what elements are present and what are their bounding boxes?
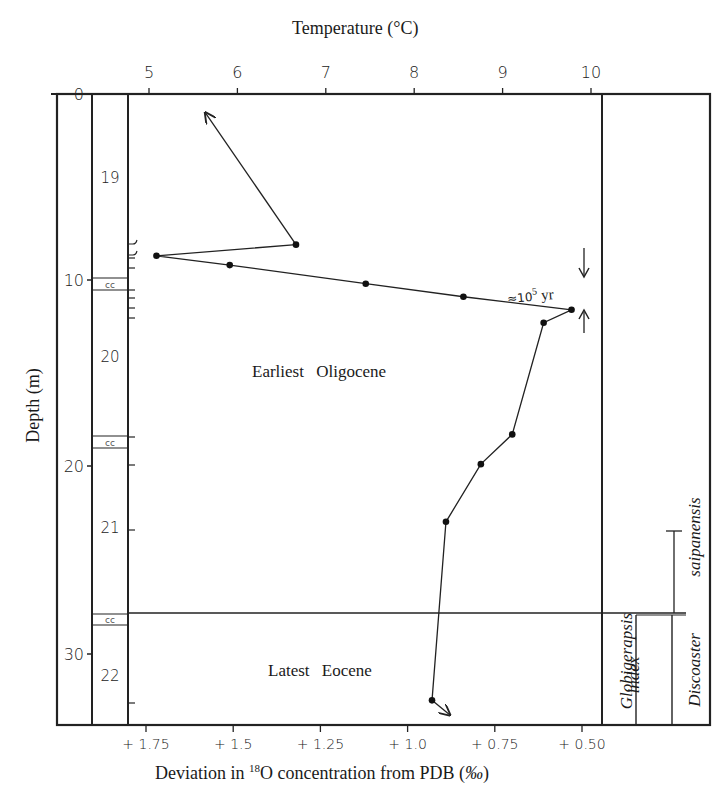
data-point <box>478 461 485 468</box>
top-axis-tick-label: 6 <box>232 63 242 82</box>
core-section-label: 20 <box>100 348 119 366</box>
top-axis-tick-label: 8 <box>409 63 419 82</box>
sample-hook <box>128 240 137 244</box>
data-point <box>540 319 547 326</box>
top-axis-tick-label: 7 <box>321 63 331 82</box>
label-earliest-oligocene: Earliest Oligocene <box>252 362 386 382</box>
time-span-unit: yr <box>537 286 555 303</box>
biozone-index: index <box>624 635 644 715</box>
bottom-axis-tick-label: + 1.0 <box>388 736 426 752</box>
data-point <box>362 280 369 287</box>
outer-border <box>57 94 710 725</box>
depth-tick-label: 10 <box>64 271 84 290</box>
depth-tick-label: 30 <box>64 645 84 664</box>
depth-tick-label: 20 <box>64 457 84 476</box>
series-arrow-up <box>205 113 296 245</box>
core-section-column: cccccc19202122 <box>92 169 137 703</box>
top-axis-tick-label: 10 <box>581 63 601 82</box>
bottom-axis-title: Deviation in 18O concentration from PDB … <box>155 762 489 784</box>
bottom-axis-tick-label: + 1.25 <box>297 736 344 752</box>
permil-symbol: ‰ <box>465 763 483 783</box>
isotope-mass-number: 18 <box>249 762 260 774</box>
bottom-d18o-axis: + 1.75+ 1.5+ 1.25+ 1.0+ 0.75+ 0.50 <box>122 725 605 752</box>
chart-frame <box>51 94 710 725</box>
series-arrow-down <box>432 700 450 715</box>
data-point <box>568 306 575 313</box>
data-point <box>293 241 300 248</box>
core-catcher-symbol: cc <box>105 438 115 448</box>
data-point <box>153 253 160 260</box>
core-catcher-symbol: cc <box>105 280 115 290</box>
depth-axis: 0102030 <box>64 85 92 664</box>
bottom-axis-tick-label: + 0.75 <box>471 736 518 752</box>
core-section-label: 22 <box>100 667 119 685</box>
depth-tick-label: 0 <box>74 85 84 104</box>
biozone-saipanensis: saipanensis <box>685 482 705 592</box>
core-section-label: 21 <box>100 519 119 537</box>
bottom-axis-tick-label: + 0.50 <box>558 736 605 752</box>
time-span-approx: ≈10 <box>507 290 533 306</box>
data-point <box>460 293 467 300</box>
data-series <box>153 113 575 716</box>
bottom-axis-title-part: O concentration from PDB ( <box>260 763 465 783</box>
label-time-span: ≈105 yr <box>506 284 554 307</box>
bottom-axis-title-part: ) <box>483 763 489 783</box>
data-point <box>443 519 450 526</box>
sample-hook <box>128 251 137 255</box>
top-temperature-axis: 5678910 <box>144 63 601 94</box>
bottom-axis-tick-label: + 1.75 <box>122 736 169 752</box>
data-point <box>509 431 516 438</box>
core-catcher-symbol: cc <box>105 615 115 625</box>
biozone-discoaster: Discoaster <box>685 615 705 725</box>
top-axis-tick-label: 5 <box>144 63 154 82</box>
series-line <box>156 245 571 701</box>
chart-canvas: 5678910 + 1.75+ 1.5+ 1.25+ 1.0+ 0.75+ 0.… <box>0 0 724 803</box>
core-section-label: 19 <box>100 169 119 187</box>
top-axis-title: Temperature (°C) <box>292 18 418 39</box>
bottom-axis-title-part: Deviation in <box>155 763 249 783</box>
data-point <box>226 262 233 269</box>
label-latest-eocene: Latest Eocene <box>268 661 372 681</box>
bottom-axis-tick-label: + 1.5 <box>214 736 252 752</box>
top-axis-tick-label: 9 <box>498 63 508 82</box>
data-point <box>429 697 436 704</box>
depth-axis-title: Depth (m) <box>23 361 44 451</box>
